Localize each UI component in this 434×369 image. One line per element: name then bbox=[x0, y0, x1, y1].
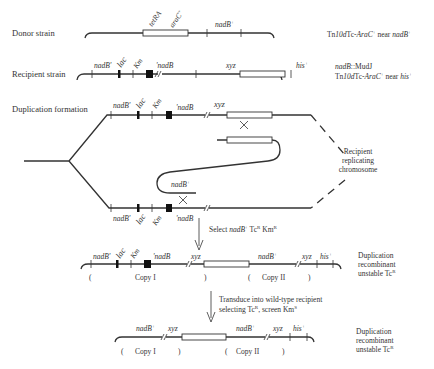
gene-nadB-plus-1: nadB+ bbox=[136, 324, 155, 333]
copy2-open: ( bbox=[248, 273, 251, 282]
gene-prime-nadB: 'nadB bbox=[153, 252, 171, 261]
gene-prime-nadB: 'nadB bbox=[156, 61, 174, 70]
gene-prime-nadB-lower: 'nadB bbox=[176, 214, 194, 223]
lac-marker bbox=[137, 111, 140, 119]
gene-xyz-2: xyz bbox=[301, 252, 312, 261]
replicating-chromosome-dashed bbox=[311, 115, 345, 208]
copy2-label: Copy II bbox=[236, 347, 260, 356]
gene-nadB-prime: nadB' bbox=[93, 252, 111, 261]
chromosome-label-1: Recipient bbox=[344, 147, 374, 156]
gene-nadB-plus: nadB+ bbox=[171, 180, 190, 189]
km-marker bbox=[146, 70, 153, 78]
crossover-x bbox=[240, 121, 248, 129]
copy1-close: ) bbox=[178, 347, 181, 356]
gene-xyz-1: xyz bbox=[167, 324, 178, 333]
gene-km: Km bbox=[131, 56, 145, 71]
gene-araC: araC+ bbox=[167, 9, 185, 30]
recipient-strain-row: Recipient strain nadB' lac Km 'nadB xyz … bbox=[12, 55, 412, 81]
gene-his: his+ bbox=[320, 252, 332, 261]
km-marker bbox=[166, 111, 172, 119]
copy2-close: ) bbox=[282, 347, 285, 356]
gene-nadB-plus-2: nadB+ bbox=[236, 324, 255, 333]
step2-arrow: Transduce into wild-type recipient selec… bbox=[207, 291, 323, 322]
gene-xyz: xyz bbox=[213, 99, 226, 109]
recombinant2-row: nadB+ xyz nadB+ xyz his+ ( Copy I ) ( Co… bbox=[115, 324, 394, 356]
recombinant1-note-1: Duplication bbox=[358, 251, 394, 260]
copy1-open: ( bbox=[89, 273, 92, 282]
recombinant1-transposon-box bbox=[204, 261, 249, 267]
crossover-x bbox=[179, 196, 187, 204]
donor-strain-label: Donor strain bbox=[12, 28, 55, 38]
recombinant2-note-1: Duplication bbox=[356, 327, 392, 336]
gene-nadB-prime: nadB' bbox=[94, 61, 112, 70]
donor-strain-row: Donor strain tetRA araC+ nadB+ Tn10dTc-A… bbox=[12, 9, 411, 39]
copy2-open: ( bbox=[225, 347, 228, 356]
lac-marker bbox=[116, 260, 119, 268]
gene-tetRA: tetRA bbox=[146, 9, 163, 28]
gene-xyz-1: xyz bbox=[190, 252, 201, 261]
gene-prime-nadB: 'nadB bbox=[176, 103, 194, 112]
step2-text-1: Transduce into wild-type recipient bbox=[219, 295, 323, 304]
gene-his: his+ bbox=[293, 324, 305, 333]
fragment-transposon-box bbox=[227, 137, 272, 143]
copy1-label: Copy I bbox=[135, 347, 156, 356]
recombinant2-note-2: recombinant bbox=[356, 336, 394, 345]
recombinant1-note-3: unstable TcR bbox=[358, 269, 396, 278]
gene-nadB-prime-lower: nadB' bbox=[113, 214, 131, 223]
gene-km-lower: Km bbox=[150, 213, 164, 228]
km-marker bbox=[144, 260, 151, 268]
gene-lac: lac bbox=[114, 55, 128, 69]
recipient-transposon-box bbox=[240, 71, 285, 77]
copy2-label: Copy II bbox=[262, 273, 286, 282]
gene-lac: lac bbox=[113, 246, 127, 260]
copy1-close: ) bbox=[204, 273, 207, 282]
copy1-label: Copy I bbox=[135, 273, 156, 282]
gene-xyz-2: xyz bbox=[272, 324, 283, 333]
gene-nadB-plus: nadB+ bbox=[258, 252, 277, 261]
gene-nadB-plus: nadB+ bbox=[215, 20, 234, 29]
copy1-open: ( bbox=[121, 347, 124, 356]
lac-marker bbox=[118, 70, 121, 78]
recipient-note-1: nadB::MudJ bbox=[335, 62, 372, 71]
gene-km: Km bbox=[150, 96, 164, 111]
gene-nadB-prime: nadB' bbox=[113, 101, 131, 110]
upper-transposon-box bbox=[227, 112, 272, 118]
step1-arrow: Select nadB+ TcR KmR bbox=[195, 218, 277, 250]
recombinant1-note-2: recombinant bbox=[358, 260, 396, 269]
duplication-formation-row: Duplication formation nadB' lac Km 'nadB… bbox=[12, 96, 378, 228]
gene-lac: lac bbox=[133, 96, 147, 110]
chromosome-label-2: replicating bbox=[342, 156, 374, 165]
recipient-note-2: Tn10dTc-AraC+ near his+ bbox=[335, 72, 412, 81]
copy2-close: ) bbox=[308, 273, 311, 282]
km-marker bbox=[166, 204, 172, 212]
gene-his: his+ bbox=[296, 61, 308, 70]
break-mark bbox=[158, 71, 161, 77]
duplication-formation-label: Duplication formation bbox=[12, 104, 89, 114]
step2-text-2: selecting TcR, screen KmS bbox=[219, 305, 297, 314]
gene-lac-lower: lac bbox=[133, 212, 147, 226]
recombinant2-transposon-box bbox=[182, 334, 226, 340]
gene-xyz: xyz bbox=[225, 61, 236, 70]
chromosome-label-3: chromosome bbox=[339, 165, 378, 174]
duplication-diagram: Donor strain tetRA araC+ nadB+ Tn10dTc-A… bbox=[0, 0, 434, 369]
lac-marker bbox=[137, 204, 140, 212]
donor-transposon-box bbox=[143, 30, 188, 36]
recombinant1-row: nadB' lac Km 'nadB xyz nadB+ xyz his+ ( … bbox=[81, 246, 396, 282]
recipient-strain-label: Recipient strain bbox=[12, 69, 66, 79]
gene-km: Km bbox=[128, 246, 142, 261]
recombinant2-note-3: unstable TcR bbox=[356, 345, 394, 354]
step1-text: Select nadB+ TcR KmR bbox=[209, 225, 277, 234]
donor-note: Tn10dTc-AraC+ near nadB+ bbox=[327, 30, 411, 39]
